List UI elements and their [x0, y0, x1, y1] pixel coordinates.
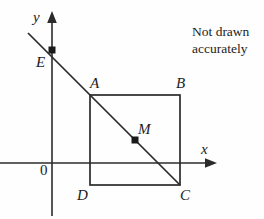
y-axis-label: y [33, 10, 40, 25]
point-label-a: A [90, 76, 99, 91]
y-axis [47, 11, 57, 216]
point-label-c: C [180, 188, 190, 203]
geometry-figure: y x 0 E A B M C D Not drawn accurately [0, 0, 264, 219]
point-label-m: M [138, 122, 151, 137]
x-axis-label: x [201, 142, 208, 157]
point-label-d: D [77, 188, 88, 203]
x-axis [0, 158, 217, 168]
point-label-b: B [176, 76, 185, 91]
point-label-e: E [36, 55, 45, 70]
not-drawn-accurately-line2: accurately [192, 39, 247, 59]
point-e-marker [49, 47, 56, 54]
point-m-marker [132, 137, 139, 144]
origin-label: 0 [40, 163, 48, 178]
